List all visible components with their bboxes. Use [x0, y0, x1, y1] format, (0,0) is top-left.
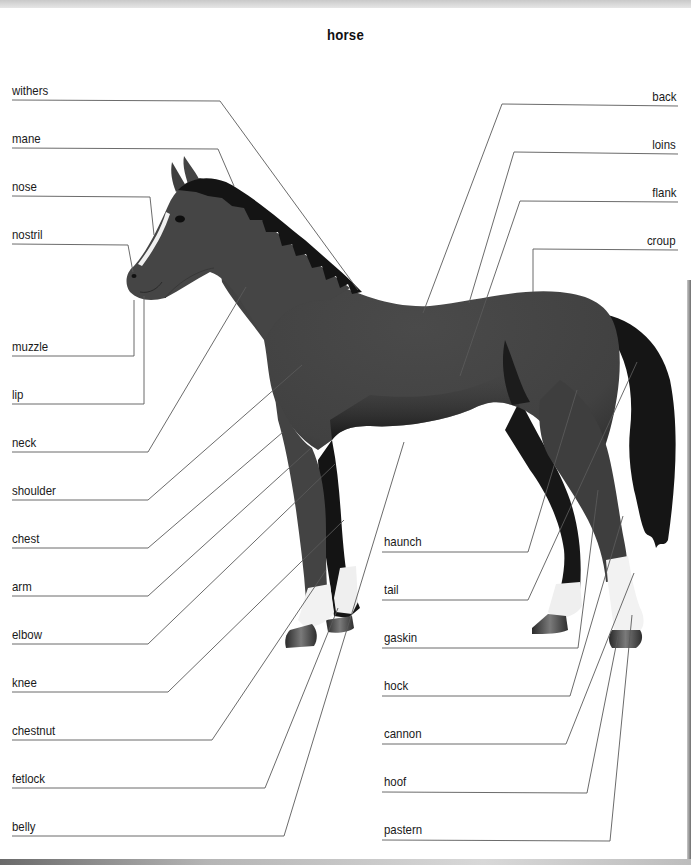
leader-cannon	[382, 573, 634, 744]
label-neck: neck	[12, 436, 36, 450]
label-tail: tail	[384, 583, 399, 597]
label-elbow: elbow	[12, 628, 42, 642]
label-chestnut: chestnut	[12, 724, 55, 738]
label-arm: arm	[12, 580, 32, 594]
label-cannon: cannon	[384, 727, 422, 741]
label-back: back	[652, 90, 676, 104]
leader-elbow	[12, 464, 335, 644]
label-withers: withers	[12, 84, 48, 98]
leader-croup	[533, 249, 678, 292]
leader-chestnut	[12, 570, 326, 740]
label-nostril: nostril	[12, 228, 43, 242]
label-nose: nose	[12, 180, 37, 194]
horse-diagram	[0, 0, 691, 865]
leader-nostril	[12, 244, 133, 272]
label-croup: croup	[647, 234, 676, 248]
leader-arm	[12, 448, 311, 596]
label-shoulder: shoulder	[12, 484, 56, 498]
label-chest: chest	[12, 532, 39, 546]
label-haunch: haunch	[384, 535, 422, 549]
label-flank: flank	[652, 186, 676, 200]
label-hoof: hoof	[384, 775, 406, 789]
label-muzzle: muzzle	[12, 340, 48, 354]
label-belly: belly	[12, 820, 36, 834]
leader-knee	[12, 520, 344, 692]
label-gaskin: gaskin	[384, 631, 417, 645]
leader-belly	[12, 442, 404, 836]
label-loins: loins	[652, 138, 676, 152]
leader-back	[423, 104, 678, 313]
label-pastern: pastern	[384, 823, 422, 837]
leader-neck	[12, 287, 246, 452]
label-knee: knee	[12, 676, 37, 690]
leader-hoof	[382, 636, 618, 793]
label-fetlock: fetlock	[12, 772, 45, 786]
label-lip: lip	[12, 388, 23, 402]
leader-loins	[469, 152, 678, 303]
label-mane: mane	[12, 132, 41, 146]
label-hock: hock	[384, 679, 408, 693]
leader-shoulder	[12, 365, 302, 500]
